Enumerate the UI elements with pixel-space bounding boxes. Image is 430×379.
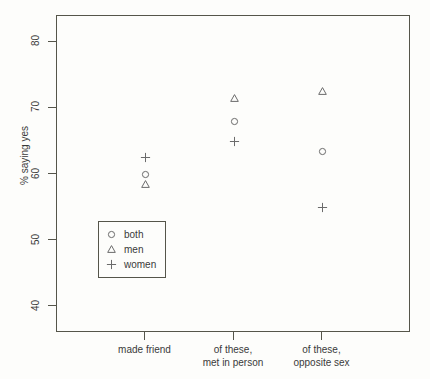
legend-label: men xyxy=(119,244,143,255)
x-tick-label: of these,opposite sex xyxy=(252,344,392,369)
y-tick-label: 40 xyxy=(30,296,41,314)
x-tick-label-line1: of these, xyxy=(214,344,252,355)
legend-marker-triangle-icon xyxy=(105,243,119,256)
plot-area xyxy=(56,15,410,332)
y-tick-label: 50 xyxy=(30,230,41,248)
legend-item-women: women xyxy=(105,257,156,272)
data-point-women-3 xyxy=(316,201,329,214)
y-tick-label: 60 xyxy=(30,164,41,182)
data-point-both-3 xyxy=(316,145,329,158)
data-point-men-1 xyxy=(139,178,152,191)
x-tick-mark xyxy=(144,332,145,340)
legend-marker-circle-icon xyxy=(105,228,119,241)
data-point-men-3 xyxy=(316,85,329,98)
x-tick-mark xyxy=(233,332,234,340)
scatter-plot-figure: % saying yes 4050607080 made friendof th… xyxy=(0,0,430,379)
legend-label: both xyxy=(119,229,143,240)
y-tick-mark xyxy=(48,173,56,174)
legend-item-both: both xyxy=(105,227,156,242)
data-point-women-1 xyxy=(139,151,152,164)
y-tick-mark xyxy=(48,107,56,108)
data-point-men-2 xyxy=(228,92,241,105)
legend: bothmenwomen xyxy=(98,221,166,278)
y-tick-label: 70 xyxy=(30,98,41,116)
legend-item-men: men xyxy=(105,242,156,257)
y-tick-mark xyxy=(48,41,56,42)
y-axis-label: % saying yes xyxy=(19,86,30,226)
x-tick-label-line2: opposite sex xyxy=(252,357,392,370)
y-tick-label: 80 xyxy=(30,32,41,50)
legend-marker-plus-icon xyxy=(105,258,119,271)
legend-label: women xyxy=(119,259,156,270)
data-point-both-2 xyxy=(228,115,241,128)
x-tick-label-line1: of these, xyxy=(302,344,340,355)
y-tick-mark xyxy=(48,305,56,306)
x-tick-mark xyxy=(321,332,322,340)
y-tick-mark xyxy=(48,239,56,240)
data-point-women-2 xyxy=(228,135,241,148)
